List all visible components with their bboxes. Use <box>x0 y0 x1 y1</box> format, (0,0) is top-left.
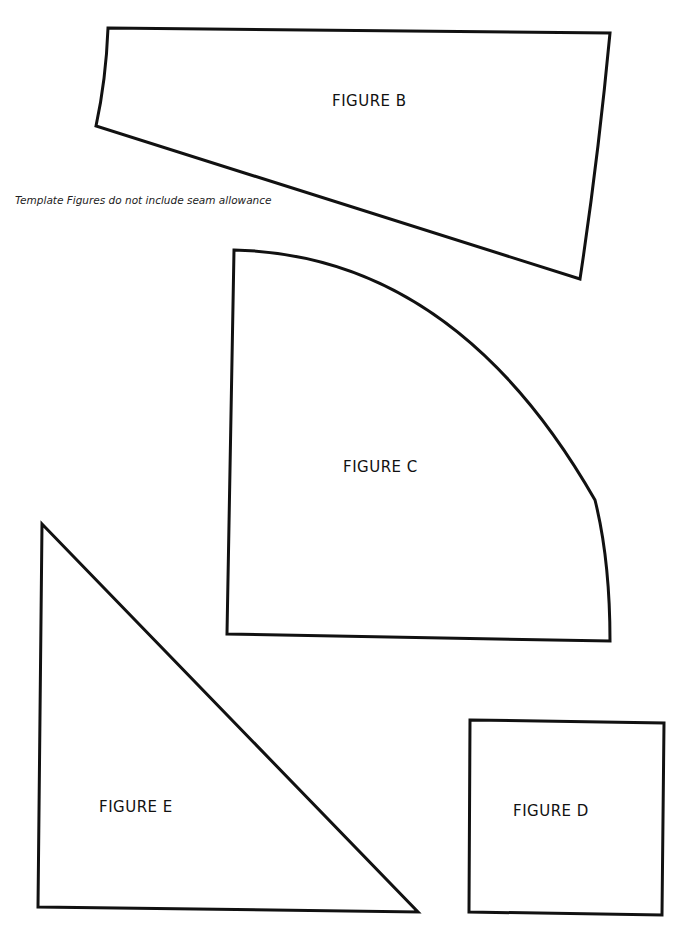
figure-e-label: FIGURE E <box>99 798 173 816</box>
figure-d-label: FIGURE D <box>513 802 589 820</box>
seam-allowance-note: Template Figures do not include seam all… <box>15 194 271 206</box>
figure-b-label: FIGURE B <box>332 92 407 110</box>
figure-c-label: FIGURE C <box>343 458 418 476</box>
figure-c-shape <box>227 250 610 641</box>
figure-b-shape <box>96 28 610 279</box>
